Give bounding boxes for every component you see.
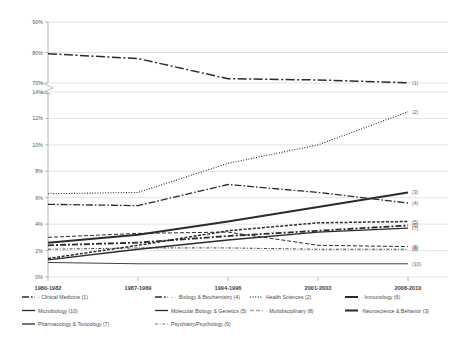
series-end-label-2: (2) [412, 109, 419, 115]
legend-label-3[interactable]: · Immunology (6) [361, 294, 400, 300]
series-line-8 [48, 232, 408, 247]
svg-text:10%: 10% [32, 142, 43, 148]
legend-label-0[interactable]: - Clinical Medicine (1) [38, 294, 88, 300]
svg-text:4%: 4% [35, 221, 43, 227]
svg-text:8%: 8% [35, 168, 43, 174]
svg-text:1994-1996: 1994-1996 [215, 285, 242, 291]
legend-label-8[interactable]: Pharmacology & Toxicology (7) [38, 321, 110, 327]
chart-legend: - Clinical Medicine (1)- · ·Biology & Bi… [22, 294, 429, 327]
series-end-label-4: (4) [412, 200, 419, 206]
series-line-4 [48, 185, 408, 206]
gridlines-upper-panel [48, 22, 448, 83]
series-line-7 [48, 228, 408, 260]
series-end-label-7: (7) [412, 225, 419, 231]
y-axis-ticks-upper: 90%80%70% [32, 19, 48, 86]
svg-text:2%: 2% [35, 248, 43, 254]
legend-label-6[interactable]: · Multidisciplinary (8) [266, 308, 314, 314]
series-end-label-10: (10) [412, 261, 421, 267]
axis-lines [41, 22, 408, 281]
series-end-label-3: (3) [412, 189, 419, 195]
svg-text:14%: 14% [32, 89, 43, 95]
svg-text:90%: 90% [32, 19, 43, 25]
series-line-2 [48, 112, 408, 194]
svg-text:0%: 0% [35, 274, 43, 280]
series-end-label-9: (9) [412, 246, 419, 252]
svg-text:6%: 6% [35, 195, 43, 201]
broken-axis-line-chart: 90%80%70% 14%12%10%8%6%4%2%0% 1980-19821… [0, 0, 457, 343]
y-axis-ticks-lower: 14%12%10%8%6%4%2%0% [32, 89, 48, 280]
svg-text:2008-2010: 2008-2010 [395, 285, 422, 291]
svg-text:12%: 12% [32, 115, 43, 121]
chart-container: 90%80%70% 14%12%10%8%6%4%2%0% 1980-19821… [0, 0, 457, 343]
svg-text:2001-2003: 2001-2003 [305, 285, 332, 291]
legend-label-7[interactable]: ·Neuroscience & Behavior (3) [361, 308, 429, 314]
svg-text:1987-1989: 1987-1989 [125, 285, 152, 291]
data-series-layer [48, 54, 408, 264]
svg-text:70%: 70% [32, 80, 43, 86]
legend-label-5[interactable]: Molecular Biology & Genetics (5) [171, 308, 247, 314]
legend-label-4[interactable]: Microbiology (10) [38, 308, 78, 314]
series-line-9 [48, 248, 408, 249]
legend-label-1[interactable]: - · ·Biology & Biochemistry (4) [171, 294, 240, 300]
series-end-labels: (1)(2)(3)(4)(5)(6)(7)(8)(9)(10) [412, 80, 421, 267]
x-axis-tick-labels: 1980-19821987-19891994-19962001-20032008… [35, 285, 422, 291]
series-line-10 [48, 262, 408, 263]
series-line-1 [48, 54, 408, 83]
svg-text:1980-1982: 1980-1982 [35, 285, 62, 291]
series-end-label-1: (1) [412, 80, 419, 86]
legend-label-9[interactable]: Psychiatry/Psychology (9) [171, 321, 231, 327]
legend-label-2[interactable]: Health Sciences (2) [266, 294, 312, 300]
svg-text:80%: 80% [32, 50, 43, 56]
